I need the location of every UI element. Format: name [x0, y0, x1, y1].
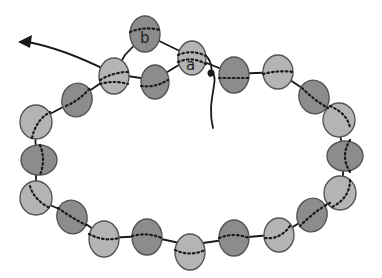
tail-thread	[211, 72, 215, 128]
bead-right-4	[324, 176, 356, 210]
label-b: b	[140, 29, 150, 47]
bead-bottom-3	[132, 219, 162, 255]
bead-left-1	[53, 197, 91, 238]
bead-loop-diagram: b a	[0, 0, 382, 278]
arrow-head-icon	[18, 35, 32, 48]
bead-left-3	[21, 145, 57, 175]
label-a: a	[186, 56, 195, 74]
bead-bottom-1	[219, 220, 249, 256]
bead-top-right-1	[219, 57, 249, 93]
exit-thread	[28, 42, 110, 72]
bead-left-5	[58, 80, 96, 121]
bead-right-3	[327, 141, 363, 171]
bead-left-4	[20, 105, 52, 139]
bead-top-left-1	[99, 58, 129, 94]
knot	[208, 70, 215, 77]
